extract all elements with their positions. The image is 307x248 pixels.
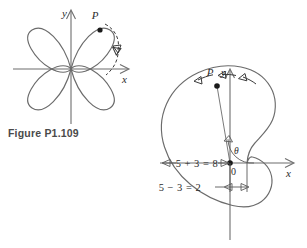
- figure-caption: Figure P1.109: [8, 127, 79, 139]
- rose-point-p-dot: [97, 27, 102, 32]
- rose-y-axis-label: y: [61, 7, 67, 19]
- rose-figure: P y x: [13, 7, 129, 124]
- limacon-radius-line: [217, 86, 230, 163]
- limacon-y-axis-label: y: [220, 66, 226, 78]
- limacon-origin-label: 0: [231, 166, 236, 177]
- limacon-dimension-right-label: 5 − 3 = 2: [159, 182, 202, 193]
- limacon-point-p-dot: [214, 83, 220, 89]
- limacon-figure: 0 θ P: [159, 66, 294, 240]
- rose-x-axis-label: x: [121, 73, 127, 85]
- rose-direction-arrow-inner: [106, 47, 121, 75]
- rose-point-p-label: P: [91, 9, 99, 21]
- limacon-dimension-left-label: 5 + 3 = 8: [176, 158, 219, 169]
- polar-curves-figure: P y x: [0, 0, 307, 248]
- limacon-x-axis-label: x: [285, 167, 291, 179]
- limacon-theta-arc: [224, 136, 254, 164]
- limacon-direction-arrow-right: [239, 74, 257, 85]
- limacon-theta-label: θ: [234, 146, 239, 156]
- figure-page: P y x: [0, 0, 307, 248]
